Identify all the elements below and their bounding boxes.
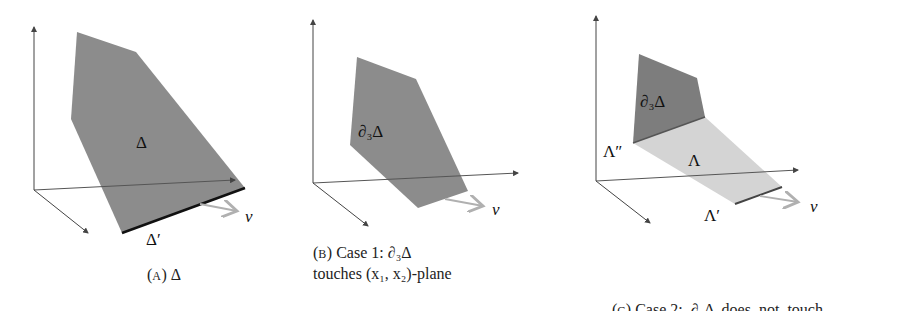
polygon-delta — [71, 32, 245, 233]
label-boundary: ∂₃Δ — [358, 122, 383, 141]
panel-a: Δ Δ′ ν — [34, 27, 253, 249]
normal-arrow-icon — [200, 204, 237, 211]
caption-a: (A) Δ — [147, 265, 181, 286]
label-delta: Δ — [136, 133, 147, 152]
label-nu: ν — [810, 197, 818, 216]
label-delta-prime: Δ′ — [146, 230, 161, 249]
label-boundary: ∂₃Δ — [640, 92, 665, 111]
caption-a-letter: A — [152, 269, 161, 283]
caption-b: (B) Case 1: ∂₃Δ touches (x₁, x₂)-plane — [313, 243, 452, 283]
label-lambda-prime: Λ′ — [704, 206, 720, 225]
y-axis — [596, 181, 650, 223]
label-nu: ν — [492, 200, 500, 219]
label-lambda: Λ — [688, 151, 701, 170]
label-nu: ν — [245, 207, 253, 226]
caption-a-paren-close: ) — [162, 266, 167, 283]
panel-b: ∂₃Δ ν — [313, 20, 518, 226]
caption-a-text: Δ — [171, 266, 181, 283]
caption-b-text: Case 1: ∂₃Δ — [336, 244, 411, 261]
caption-c-letter: C — [617, 304, 626, 311]
label-lambda-double-prime: Λ″ — [603, 142, 622, 161]
normal-arrow-icon — [445, 199, 483, 206]
y-axis — [313, 183, 368, 226]
caption-b-line2: touches (x₁, x₂)-plane — [313, 264, 452, 283]
caption-b-letter: B — [318, 247, 327, 261]
caption-c: (C) Case 2: ∂₃Δ does not touch (x₁, x₂)-… — [596, 243, 823, 311]
caption-b-paren-close: ) — [327, 244, 332, 261]
caption-c-text: Case 2: ∂₃Δ does not touch — [635, 301, 823, 311]
y-axis — [34, 190, 88, 233]
normal-arrow-icon — [760, 196, 798, 202]
caption-c-paren-close: ) — [626, 301, 631, 311]
panel-c: ∂₃Δ Λ Λ″ Λ′ ν — [596, 16, 818, 225]
